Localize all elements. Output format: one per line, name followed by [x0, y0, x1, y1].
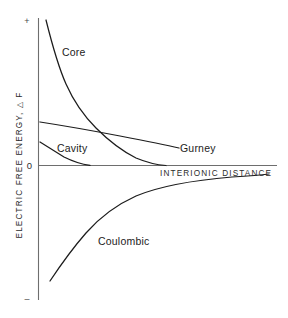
y-axis-positive-sign: + [24, 16, 29, 26]
figure-container: + – 0 ELECTRIC FREE ENERGY, △ F INTERION… [0, 0, 288, 318]
curve-label-gurney: Gurney [180, 142, 216, 154]
electric-free-energy-plot: + – 0 ELECTRIC FREE ENERGY, △ F INTERION… [0, 0, 288, 318]
y-axis-title: ELECTRIC FREE ENERGY, △ F [15, 92, 24, 239]
curve-label-cavity: Cavity [57, 142, 88, 154]
x-axis-title: INTERIONIC DISTANCE [160, 169, 272, 178]
curve-coulombic [50, 174, 269, 281]
curve-label-coulombic: Coulombic [98, 235, 149, 247]
y-axis-negative-sign: – [24, 294, 29, 304]
curve-label-core: Core [62, 46, 86, 58]
y-axis-zero-tick-label: 0 [27, 160, 32, 171]
